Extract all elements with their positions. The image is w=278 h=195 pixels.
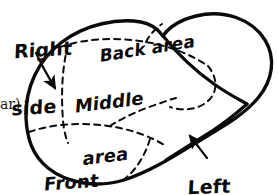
hand-drawn-diagram: Right side Back area Middle area Front t… bbox=[0, 0, 278, 195]
label-front-tip-line1: Front bbox=[43, 172, 99, 194]
label-right-side: Right side bbox=[9, 1, 74, 155]
label-left-side-line1: Left bbox=[187, 176, 253, 195]
caption-fragment-text: ar) bbox=[0, 96, 21, 112]
label-right-side-line1: Right bbox=[14, 39, 73, 61]
label-middle-area-line1: Middle bbox=[74, 89, 144, 115]
label-left-side: Left side bbox=[182, 139, 255, 195]
